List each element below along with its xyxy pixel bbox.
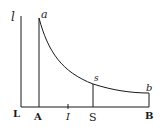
diagram-figure [0,0,161,132]
diagram-canvas: l a s b L A I S B [0,0,161,132]
label-A: A [34,112,42,122]
label-l: l [11,11,15,23]
label-b: b [146,83,152,93]
label-L: L [13,109,20,119]
label-I: I [66,112,70,122]
label-s: s [94,74,99,83]
label-a: a [41,9,48,20]
label-B: B [145,111,153,121]
label-S: S [89,112,97,123]
